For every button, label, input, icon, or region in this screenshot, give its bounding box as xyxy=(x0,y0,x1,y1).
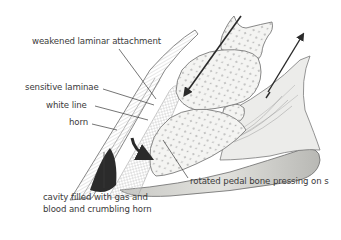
label-rotated-pedal-bone: rotated pedal bone pressing on s xyxy=(190,176,329,187)
label-weakened-laminar-attachment: weakened laminar attachment xyxy=(32,36,161,47)
label-cavity-line1: cavity filled with gas and xyxy=(43,192,148,203)
label-horn: horn xyxy=(69,117,88,128)
label-sensitive-laminae: sensitive laminae xyxy=(25,82,99,93)
label-cavity-line2: blood and crumbling horn xyxy=(43,204,152,215)
label-white-line: white line xyxy=(46,100,87,111)
